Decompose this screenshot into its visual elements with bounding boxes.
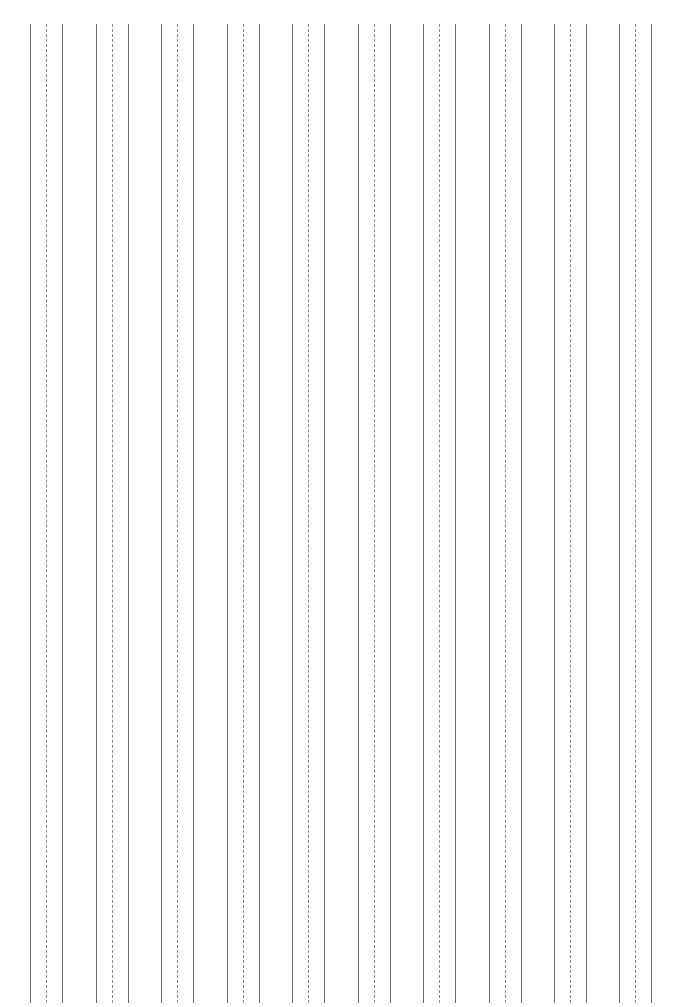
line-group [554, 24, 588, 1003]
solid-rule-line [358, 24, 359, 1003]
dashed-guide-line [570, 24, 571, 1003]
solid-rule-line [292, 24, 293, 1003]
solid-rule-line [554, 24, 555, 1003]
solid-rule-line [324, 24, 325, 1003]
solid-rule-line [455, 24, 456, 1003]
solid-rule-line [30, 24, 31, 1003]
solid-rule-line [259, 24, 260, 1003]
dashed-guide-line [635, 24, 636, 1003]
ruled-paper-sheet [0, 0, 679, 1007]
line-group [292, 24, 326, 1003]
line-group [227, 24, 261, 1003]
solid-rule-line [521, 24, 522, 1003]
line-group [161, 24, 195, 1003]
solid-rule-line [227, 24, 228, 1003]
solid-rule-line [651, 24, 652, 1003]
line-group [30, 24, 64, 1003]
dashed-guide-line [439, 24, 440, 1003]
solid-rule-line [586, 24, 587, 1003]
solid-rule-line [423, 24, 424, 1003]
solid-rule-line [62, 24, 63, 1003]
dashed-guide-line [374, 24, 375, 1003]
solid-rule-line [619, 24, 620, 1003]
dashed-guide-line [308, 24, 309, 1003]
line-group [96, 24, 130, 1003]
line-group [489, 24, 523, 1003]
solid-rule-line [161, 24, 162, 1003]
dashed-guide-line [243, 24, 244, 1003]
dashed-guide-line [177, 24, 178, 1003]
solid-rule-line [193, 24, 194, 1003]
dashed-guide-line [46, 24, 47, 1003]
solid-rule-line [390, 24, 391, 1003]
dashed-guide-line [112, 24, 113, 1003]
solid-rule-line [489, 24, 490, 1003]
solid-rule-line [128, 24, 129, 1003]
line-group [423, 24, 457, 1003]
line-group [619, 24, 653, 1003]
solid-rule-line [96, 24, 97, 1003]
line-group [358, 24, 392, 1003]
dashed-guide-line [505, 24, 506, 1003]
